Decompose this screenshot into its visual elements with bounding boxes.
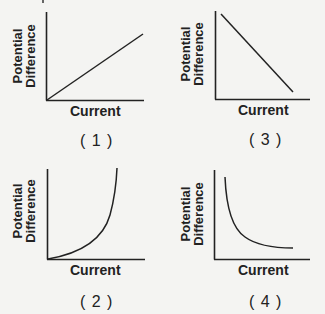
x-axis-label: Current	[70, 103, 121, 119]
graph-panel-2: Potential Difference Current ( 2 )	[0, 155, 160, 314]
graph-number: ( 3 )	[249, 131, 282, 149]
x-axis-label: Current	[238, 102, 289, 118]
plot-area	[0, 155, 160, 314]
graph-number: ( 1 )	[80, 132, 113, 150]
graph-panel-4: Potential Difference Current ( 4 )	[160, 155, 325, 314]
graph-panel-3: Potential Difference Current ( 3 )	[160, 0, 325, 155]
x-axis-label: Current	[70, 262, 121, 278]
plot-area	[160, 0, 325, 155]
graph-number: ( 2 )	[80, 293, 113, 311]
x-axis-label: Current	[238, 262, 289, 278]
plot-area	[160, 155, 325, 314]
graph-number: ( 4 )	[249, 293, 282, 311]
graph-panel-1: Potential Difference Current ( 1 )	[0, 0, 160, 155]
